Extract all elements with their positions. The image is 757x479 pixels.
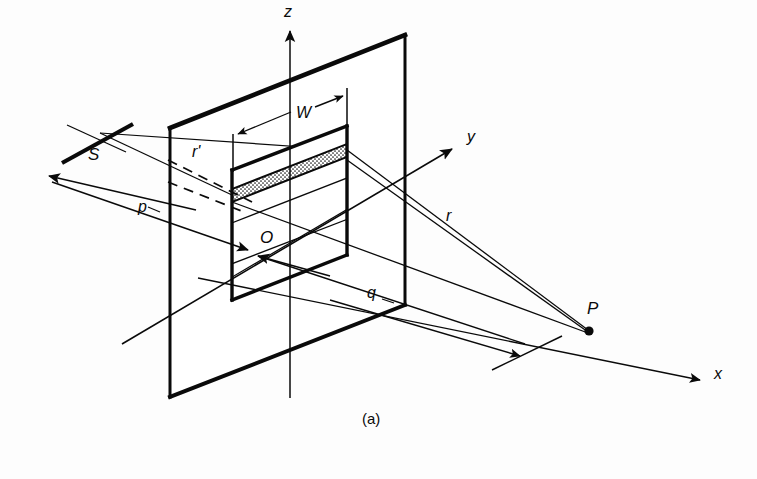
axis-label-z: z — [284, 4, 292, 20]
source-label-S: S — [88, 146, 99, 163]
axis-label-x: x — [714, 366, 722, 382]
axis-label-y: y — [467, 129, 475, 145]
width-label-W: W — [296, 105, 311, 121]
distance-label-q: q — [367, 285, 376, 301]
distance-label-r-prime: r' — [192, 144, 200, 160]
optical-diagram-svg — [0, 0, 757, 479]
origin-label-O: O — [260, 229, 273, 246]
observation-label-P: P — [587, 300, 598, 317]
figure-caption: (a) — [362, 411, 380, 426]
figure-container: z y x O S P p q r r' W (a) — [0, 0, 757, 479]
distance-label-p: p — [138, 199, 147, 215]
distance-label-r: r — [446, 208, 451, 224]
